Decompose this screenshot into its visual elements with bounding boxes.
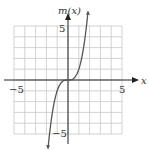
- curve-arrowhead-icon: [46, 145, 50, 149]
- y-tick-neg5: −5: [52, 128, 67, 139]
- y-tick-5: 5: [59, 23, 65, 34]
- axes: [4, 13, 139, 144]
- y-axis-label: m(x): [58, 5, 81, 16]
- function-graph: m(x) x −5 5 5 −5: [0, 0, 149, 150]
- x-tick-5: 5: [119, 84, 125, 95]
- x-axis-label: x: [141, 75, 147, 86]
- curve-arrowhead-icon: [86, 11, 90, 15]
- x-tick-neg5: −5: [9, 84, 24, 95]
